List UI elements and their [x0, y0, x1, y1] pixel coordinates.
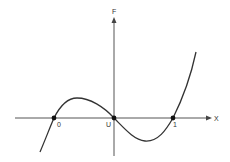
root-label-u: U	[106, 121, 111, 128]
cubic-curve	[40, 52, 196, 152]
root-point-u	[112, 116, 117, 121]
y-axis-arrow-icon	[112, 17, 117, 23]
x-axis-arrow-icon	[206, 116, 212, 121]
root-point-1	[171, 116, 176, 121]
y-axis-label: F	[112, 8, 116, 15]
x-axis-label: X	[214, 115, 219, 122]
function-plot	[0, 0, 230, 162]
root-point-0	[52, 116, 57, 121]
root-label-0: 0	[57, 121, 61, 128]
y-axis	[112, 17, 117, 156]
root-label-1: 1	[173, 121, 177, 128]
